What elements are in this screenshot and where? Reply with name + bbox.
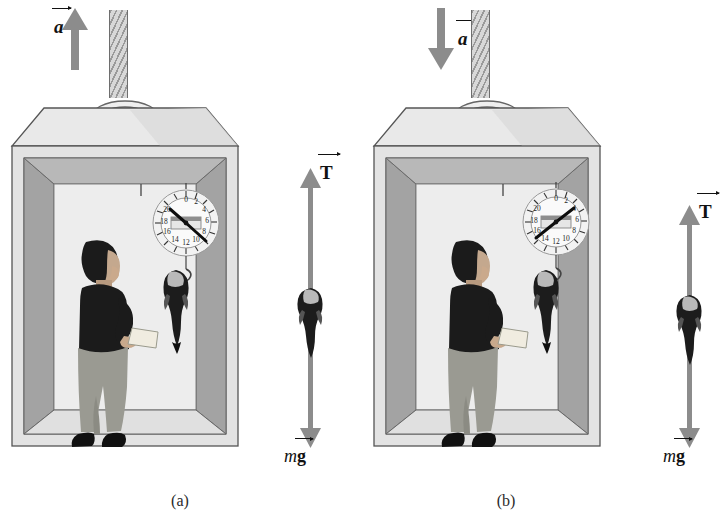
support-cable [109,10,128,98]
weight-label-mg: mg [663,446,685,467]
svg-text:12: 12 [552,237,560,246]
svg-text:14: 14 [171,235,179,244]
acceleration-arrow-down: a [421,8,461,70]
tension-label-T: T [320,162,333,184]
svg-text:18: 18 [530,216,538,225]
svg-text:18: 18 [160,217,168,226]
panel-b: a [361,0,721,531]
tension-label-T: T [699,201,712,223]
free-body-diagram: T mg [282,168,342,452]
svg-text:6: 6 [575,215,579,224]
free-body-diagram: T mg [661,205,721,452]
svg-text:16: 16 [163,227,171,236]
svg-text:4: 4 [202,205,206,214]
physics-figure-elevator-scale: a [0,0,721,531]
panel-caption-b: (b) [326,492,686,510]
svg-text:8: 8 [572,226,576,235]
svg-text:0: 0 [554,194,558,203]
panel-caption-a: (a) [0,492,360,510]
svg-text:0: 0 [184,195,188,204]
man-with-clipboard [422,236,530,462]
panel-a: a [0,0,360,531]
acceleration-label-a: a [458,28,468,50]
svg-text:6: 6 [205,216,209,225]
weight-label-mg: mg [284,446,306,467]
hanging-fish [158,268,194,358]
svg-text:10: 10 [562,234,570,243]
acceleration-label-a: a [54,16,64,38]
svg-text:8: 8 [202,227,206,236]
svg-text:2: 2 [194,197,198,206]
svg-text:12: 12 [182,238,190,247]
man-with-clipboard [52,236,160,462]
hanging-fish [528,268,564,358]
svg-text:20: 20 [533,204,541,213]
acceleration-arrow-up: a [55,8,95,70]
svg-text:14: 14 [541,234,549,243]
svg-text:2: 2 [564,196,568,205]
support-cable [471,10,490,98]
